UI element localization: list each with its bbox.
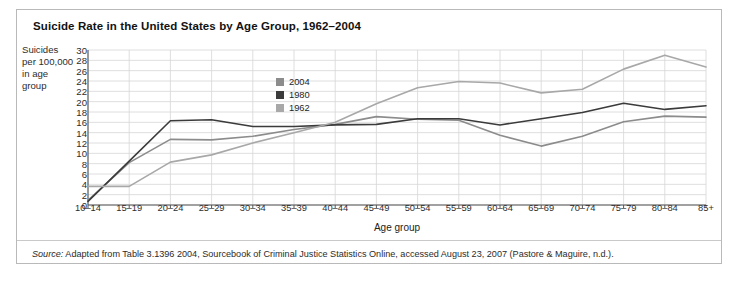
x-tick-label: 10–14 xyxy=(75,203,101,213)
y-tick-label: 26 xyxy=(76,65,87,76)
figure-page: Suicide Rate in the United States by Age… xyxy=(0,0,744,289)
source-divider xyxy=(17,240,721,241)
y-tick-label: 2 xyxy=(82,189,87,200)
x-tick-label: 50–54 xyxy=(405,203,431,213)
legend-label: 1980 xyxy=(289,90,310,100)
x-axis-ticks: 10–1415–1920–2425–2930–3435–3940–4445–49… xyxy=(0,203,744,221)
x-tick-label: 75–79 xyxy=(611,203,637,213)
source-text: Adapted from Table 3.1396 2004, Sourcebo… xyxy=(63,249,613,259)
x-axis-title-text: Age group xyxy=(374,222,420,233)
y-axis-ticks: 302826242220181614121086420 xyxy=(63,44,87,209)
series-line-2004 xyxy=(88,116,706,200)
chart-legend: 200419801962 xyxy=(276,76,310,115)
source-label: Source: xyxy=(32,249,63,259)
y-tick-label: 8 xyxy=(82,158,87,169)
x-tick-label: 15–19 xyxy=(116,203,142,213)
x-tick-label: 65–69 xyxy=(528,203,554,213)
legend-swatch-icon xyxy=(276,78,284,86)
source-note: Source: Adapted from Table 3.1396 2004, … xyxy=(32,249,614,259)
x-tick-label: 30–34 xyxy=(240,203,266,213)
legend-item: 2004 xyxy=(276,76,310,88)
legend-swatch-icon xyxy=(276,104,284,112)
x-tick-label: 45–49 xyxy=(363,203,389,213)
x-tick-label: 40–44 xyxy=(322,203,348,213)
legend-label: 2004 xyxy=(289,77,310,87)
y-tick-label: 14 xyxy=(76,127,87,138)
plot-area xyxy=(0,0,744,289)
x-tick-label: 20–24 xyxy=(157,203,183,213)
x-tick-label: 60–64 xyxy=(487,203,513,213)
x-tick-label: 25–29 xyxy=(199,203,225,213)
x-axis-title: Age group xyxy=(0,222,744,233)
legend-label: 1962 xyxy=(289,103,310,113)
legend-swatch-icon xyxy=(276,91,284,99)
x-tick-label: 70–74 xyxy=(569,203,595,213)
y-tick-label: 20 xyxy=(76,96,87,107)
legend-item: 1962 xyxy=(276,102,310,114)
x-tick-label: 55–59 xyxy=(446,203,472,213)
x-tick-label: 85+ xyxy=(698,203,714,213)
x-tick-label: 80–84 xyxy=(652,203,678,213)
line-chart-svg xyxy=(0,0,744,289)
legend-item: 1980 xyxy=(276,89,310,101)
x-tick-label: 35–39 xyxy=(281,203,307,213)
